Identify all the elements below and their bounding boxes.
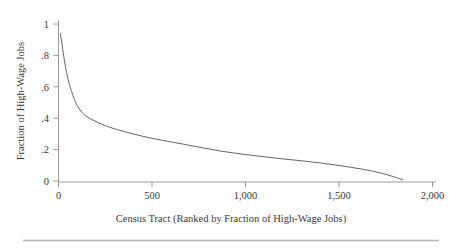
x-axis-title: Census Tract (Ranked by Fraction of High… bbox=[116, 213, 347, 225]
x-tick-label: 2,000 bbox=[421, 190, 445, 201]
y-tick-label: .8 bbox=[41, 50, 49, 61]
x-tick-label: 500 bbox=[144, 190, 160, 201]
x-tick-label: 0 bbox=[56, 190, 61, 201]
y-tick-label: .2 bbox=[41, 144, 49, 155]
x-tick-label: 1,500 bbox=[327, 190, 351, 201]
y-axis-title: Fraction of High-Wage Jobs bbox=[15, 42, 26, 160]
y-tick-label: 0 bbox=[44, 176, 49, 187]
y-tick-label: .4 bbox=[41, 113, 50, 124]
chart-figure: 1 .8 .6 .4 .2 0 0 500 1,000 1,500 2,000 … bbox=[0, 0, 461, 249]
x-tick-label: 1,000 bbox=[234, 190, 258, 201]
chart-background bbox=[0, 0, 461, 249]
y-tick-label: .6 bbox=[41, 82, 49, 93]
y-tick-label: 1 bbox=[44, 19, 49, 30]
chart-svg: 1 .8 .6 .4 .2 0 0 500 1,000 1,500 2,000 … bbox=[0, 0, 461, 249]
